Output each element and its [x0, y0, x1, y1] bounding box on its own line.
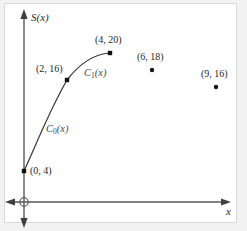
point-label-6-18: (6, 18)	[137, 52, 164, 62]
curve-label-c1: C1(x)	[84, 68, 106, 80]
point-label-0-4: (0, 4)	[30, 166, 52, 176]
data-point-0-4	[22, 169, 26, 173]
curve-label-c1-argument: (x)	[95, 67, 107, 78]
figure-container: S(x) x C0(x) C1(x) (0, 4) (2, 16) (4, 20…	[0, 0, 247, 231]
curve-label-c0-letter: C	[46, 123, 53, 134]
point-label-9-16: (9, 16)	[201, 69, 228, 79]
data-point-6-18	[150, 68, 154, 72]
y-axis-down-arrow-icon	[20, 218, 27, 228]
curve-label-c0: C0(x)	[46, 124, 68, 136]
x-axis-label: x	[226, 206, 231, 217]
curve-label-c1-letter: C	[84, 67, 91, 78]
point-label-2-16: (2, 16)	[36, 64, 63, 74]
y-axis-up-arrow-icon	[20, 9, 27, 19]
data-point-4-20	[108, 51, 112, 55]
curve-label-c0-argument: (x)	[57, 123, 69, 134]
data-point-9-16	[214, 85, 218, 89]
y-axis-label: S(x)	[31, 12, 49, 23]
plot-canvas	[0, 0, 247, 231]
x-axis-left-arrow-icon	[5, 198, 15, 205]
point-label-4-20: (4, 20)	[95, 35, 122, 45]
data-point-2-16	[65, 78, 69, 82]
